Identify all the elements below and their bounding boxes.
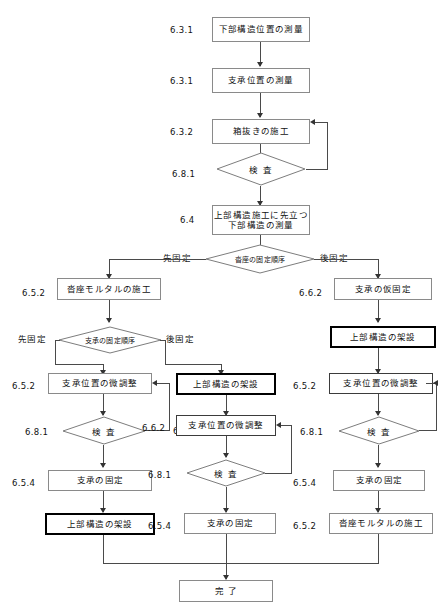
decision-inspection-LM-label: 検 査 [186,459,266,487]
clause-number-R1: 6.6.2 [299,288,322,298]
loopback-LMd-v [291,425,292,473]
loopback-Rd-h-out [419,430,437,431]
node-bearing-fine-adjust-R[interactable]: 支承位置の微調整 [329,373,433,394]
arrowhead-L1-d3 [106,318,112,323]
clause-number-n4: 6.4 [180,215,194,225]
loopback-LLd-h-in [157,383,170,384]
branch-d2-left-h [109,259,206,260]
branch-d2-right-h [314,259,378,260]
arrowhead-LLd-LL2 [100,463,106,468]
decision-inspection-1-label: 検 査 [216,152,306,186]
node-bearing-fixing-LL[interactable]: 支承の固定 [48,470,152,491]
branch-label-d3-right: 後固定 [166,332,194,344]
connector-LL3-merge [103,535,104,564]
clause-number-LLd: 6.8.1 [25,427,48,437]
arrowhead-n1-n2 [257,62,263,67]
node-seat-mortar-construction-right[interactable]: 沓座モルタルの施工 [329,513,433,534]
decision-inspection-R[interactable]: 検 査 [338,416,420,445]
branch-d3-left-v [55,340,56,364]
node-bearing-position-survey[interactable]: 支承位置の測量 [212,68,310,93]
clause-number-LL1: 6.5.2 [12,381,35,391]
clause-number-n2: 6.3.1 [170,76,193,86]
arrowhead-LM2-LMd [223,453,229,458]
connector-R5-merge [378,534,379,564]
loopback-LLd-v [169,383,170,430]
node-seat-mortar-construction-left[interactable]: 沓座モルタルの施工 [57,278,161,300]
arrowhead-loopback-d1-n3 [310,119,315,125]
node-superstructure-erection-LL[interactable]: 上部構造の架設 [45,513,155,535]
decision-bearing-fixing-order-label: 支承の固定順序 [58,326,162,354]
clause-number-LM2: 6.6.2 [142,423,165,433]
clause-number-R4: 6.5.4 [293,478,316,488]
node-bearing-fixing-LM[interactable]: 支承の固定 [184,513,276,534]
decision-seat-fixing-order[interactable]: 沓座の固定順序 [205,244,315,274]
clause-number-L1: 6.5.2 [22,288,45,298]
arrowhead-loopback-Rd [433,380,438,386]
clause-number-d1: 6.8.1 [172,169,195,179]
loopback-d1-n3-h-in [314,122,328,123]
branch-label-d2-right: 後固定 [320,251,348,263]
loopback-LMd-h-out [265,473,292,474]
loopback-d1-n3-v [327,122,328,169]
node-bearing-fixing-R[interactable]: 支承の固定 [333,470,425,491]
decision-inspection-1[interactable]: 検 査 [216,152,306,186]
arrowhead-R1-R2 [375,318,381,323]
arrowhead-n2-n3 [257,113,263,118]
node-pre-superstructure-survey[interactable]: 上部構造施工に先立つ 下部構造の測量 [212,205,310,235]
branch-d3-left-h2 [55,364,103,365]
flowchart-canvas: 6.3.1 下部構造位置の測量 6.3.1 支承位置の測量 6.3.2 箱抜きの… [0,0,447,614]
branch-d3-right-v [165,340,166,364]
node-lower-structure-survey[interactable]: 下部構造位置の測量 [212,17,310,42]
decision-bearing-fixing-order[interactable]: 支承の固定順序 [58,326,162,354]
node-bearing-fine-adjust-LL[interactable]: 支承位置の微調整 [48,373,152,394]
clause-number-LL2: 6.5.4 [12,478,35,488]
branch-label-d2-left: 先固定 [163,251,191,263]
loopback-LMd-h-in [281,425,292,426]
arrowhead-Rd-R4 [375,463,381,468]
node-box-out-construction[interactable]: 箱抜きの施工 [212,119,310,144]
decision-seat-fixing-order-label: 沓座の固定順序 [205,244,315,274]
clause-number-n1: 6.3.1 [170,25,193,35]
node-bearing-temporary-fixing[interactable]: 支承の仮固定 [334,278,432,300]
clause-number-LMd: 6.8.1 [148,470,171,480]
clause-number-LM3: 6.5.4 [148,521,171,531]
branch-d3-right-h2 [165,364,221,365]
merge-bus-line [103,563,379,564]
loopback-d1-n3-h-out [306,169,328,170]
decision-inspection-R-label: 検 査 [338,416,420,445]
branch-label-d3-left: 先固定 [18,332,46,344]
node-bearing-fine-adjust-LM[interactable]: 支承位置の微調整 [176,415,276,436]
node-superstructure-erection-LM[interactable]: 上部構造の架設 [176,373,276,395]
clause-number-R5: 6.5.2 [293,521,316,531]
node-complete[interactable]: 完 了 [179,580,273,602]
decision-inspection-LL[interactable]: 検 査 [62,416,146,445]
node-superstructure-erection-R[interactable]: 上部構造の架設 [330,326,436,348]
clause-number-Rd: 6.8.1 [300,427,323,437]
arrowhead-loopback-LLd [152,380,157,386]
decision-inspection-LM[interactable]: 検 査 [186,459,266,487]
decision-inspection-LL-label: 検 査 [62,416,146,445]
arrowhead-loopback-LMd [276,422,281,428]
loopback-Rd-v [436,383,437,430]
clause-number-n3: 6.3.2 [170,127,193,137]
clause-number-R3: 6.5.2 [293,381,316,391]
